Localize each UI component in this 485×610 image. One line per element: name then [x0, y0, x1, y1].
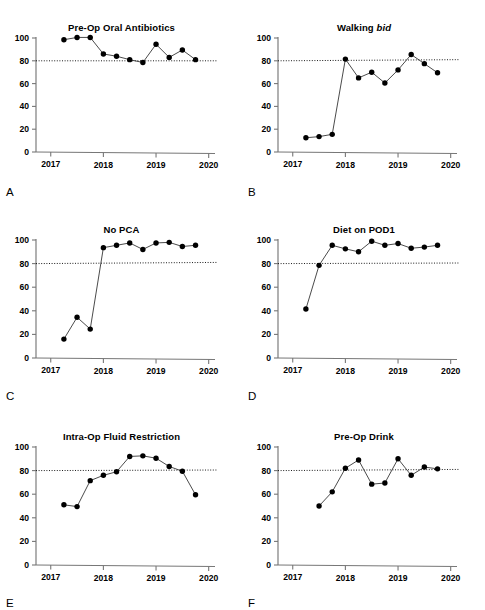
x-tick-label: 2020: [441, 366, 460, 376]
data-point: [153, 456, 158, 461]
data-point: [74, 35, 79, 40]
x-tick-label: 2017: [283, 572, 302, 582]
y-tick-label: 40: [19, 306, 29, 316]
data-point: [114, 469, 119, 474]
x-tick-label: 2019: [388, 160, 407, 170]
data-point: [408, 246, 413, 251]
data-point: [114, 54, 119, 59]
data-point: [101, 245, 106, 250]
data-point: [88, 326, 93, 331]
data-point: [356, 75, 361, 80]
data-point: [140, 453, 145, 458]
data-point: [316, 503, 321, 508]
y-tick-label: 0: [24, 353, 29, 363]
plot-area: 0204060801002017201820192020: [243, 200, 485, 405]
data-point: [61, 502, 66, 507]
y-tick-label: 0: [24, 147, 29, 157]
x-tick-label: 2019: [146, 573, 165, 583]
x-axis-line: [278, 565, 457, 567]
plot-area: 0204060801002017201820192020: [243, 0, 485, 200]
data-point: [140, 60, 145, 65]
x-tick-label: 2018: [336, 573, 355, 583]
data-point: [330, 132, 335, 137]
data-point: [382, 80, 387, 85]
y-tick-label: 60: [261, 282, 271, 292]
data-point: [330, 243, 335, 248]
y-tick-label: 40: [261, 101, 271, 111]
series-line: [64, 456, 196, 507]
data-point: [140, 247, 145, 252]
data-point: [343, 56, 348, 61]
data-point: [166, 240, 171, 245]
threshold-line: [278, 263, 459, 264]
data-point: [330, 489, 335, 494]
x-tick-label: 2020: [199, 160, 218, 170]
x-tick-label: 2019: [146, 366, 165, 376]
data-point: [101, 473, 106, 478]
data-point: [316, 263, 321, 268]
y-tick-label: 40: [261, 513, 271, 523]
x-tick-label: 2020: [441, 573, 460, 583]
y-tick-label: 0: [266, 560, 271, 570]
data-point: [101, 51, 106, 56]
data-point: [193, 243, 198, 248]
threshold-line: [278, 469, 459, 470]
x-tick-label: 2019: [388, 366, 407, 376]
panel-c: No PCAC0204060801002017201820192020: [0, 200, 243, 405]
y-tick-label: 0: [266, 147, 271, 157]
data-point: [356, 457, 361, 462]
data-point: [193, 57, 198, 62]
x-axis-line: [278, 152, 457, 154]
data-point: [382, 243, 387, 248]
y-tick-label: 60: [261, 79, 271, 89]
data-point: [193, 492, 198, 497]
data-point: [435, 70, 440, 75]
y-tick-label: 100: [257, 33, 272, 43]
y-tick-label: 100: [257, 442, 272, 452]
data-point: [395, 67, 400, 72]
plot-area: 0204060801002017201820192020: [0, 200, 243, 405]
x-axis-line: [36, 152, 215, 154]
plot-area: 0204060801002017201820192020: [243, 405, 485, 610]
data-point: [422, 244, 427, 249]
data-point: [153, 240, 158, 245]
x-axis-line: [36, 565, 215, 567]
series-line: [319, 459, 437, 506]
data-point: [166, 55, 171, 60]
series-line: [64, 242, 196, 339]
y-tick-label: 20: [19, 124, 29, 134]
x-tick-label: 2017: [283, 365, 302, 375]
data-point: [127, 454, 132, 459]
data-point: [303, 306, 308, 311]
x-tick-label: 2018: [336, 160, 355, 170]
x-tick-label: 2020: [199, 366, 218, 376]
data-point: [127, 57, 132, 62]
x-tick-label: 2018: [94, 573, 113, 583]
data-point: [166, 464, 171, 469]
panel-f: Pre-Op DrinkF020406080100201720182019202…: [243, 405, 485, 610]
y-tick-label: 60: [19, 489, 29, 499]
data-point: [408, 473, 413, 478]
y-tick-label: 60: [19, 282, 29, 292]
data-point: [61, 336, 66, 341]
plot-area: 0204060801002017201820192020: [0, 0, 243, 200]
y-tick-label: 80: [19, 259, 29, 269]
plot-area: 0204060801002017201820192020: [0, 405, 243, 610]
y-tick-label: 100: [15, 442, 30, 452]
data-point: [435, 466, 440, 471]
x-tick-label: 2018: [94, 366, 113, 376]
x-axis-line: [36, 358, 215, 360]
data-point: [114, 243, 119, 248]
y-tick-label: 100: [15, 33, 30, 43]
data-point: [435, 243, 440, 248]
y-tick-label: 20: [261, 124, 271, 134]
data-point: [180, 244, 185, 249]
x-axis-line: [278, 358, 457, 360]
data-point: [422, 464, 427, 469]
panel-b: Walking bidB0204060801002017201820192020: [243, 0, 485, 200]
data-point: [343, 246, 348, 251]
y-tick-label: 20: [261, 536, 271, 546]
y-tick-label: 20: [19, 329, 29, 339]
data-point: [74, 315, 79, 320]
x-tick-label: 2017: [41, 365, 60, 375]
